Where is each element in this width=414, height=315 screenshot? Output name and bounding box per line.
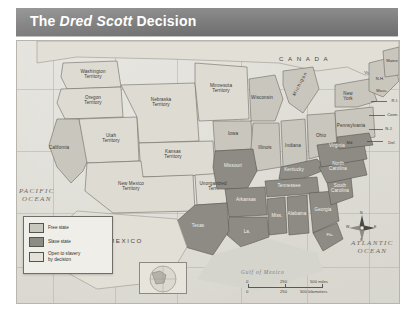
legend-swatch-slave [29, 237, 44, 247]
label-massachusetts: Mass. [373, 89, 391, 94]
label-indiana: Indiana [279, 143, 307, 148]
map-page: The Dred Scott Decision 120°W 110°W 100°… [0, 0, 414, 315]
scale-miles-max: 500 miles [310, 279, 328, 284]
label-new-jersey: N.J. [383, 127, 395, 132]
label-gulf-of-mexico: Gulf of Mexico [241, 269, 285, 275]
map-legend: Free state Slave state Open to slavery b… [23, 216, 113, 274]
legend-item-open-to-slavery: Open to slavery by decision [29, 251, 80, 262]
scale-km-max: 500 kilometers [300, 289, 327, 294]
compass-south-label: S [360, 238, 362, 242]
label-north-carolina: North Carolina [323, 161, 353, 172]
label-vermont: Vt. [361, 71, 373, 76]
label-alabama: Alabama [283, 211, 311, 216]
label-nebraska-territory: Nebraska Territory [135, 97, 187, 108]
label-oregon-territory: Oregon Territory [69, 95, 117, 106]
leader-line [369, 115, 385, 116]
label-louisiana: La. [239, 229, 255, 234]
legend-swatch-free [29, 223, 44, 233]
label-delaware: Del. [385, 141, 399, 146]
label-washington-territory: Washington Territory [69, 69, 117, 80]
scale-bar: 0 250 500 miles 0 250 500 kilometers [238, 279, 338, 299]
legend-label-slave: Slave state [48, 239, 71, 245]
leader-line [369, 129, 383, 130]
label-tennessee: Tennessee [271, 183, 307, 188]
label-illinois: Illinois [251, 145, 279, 150]
label-kentucky: Kentucky [279, 167, 309, 172]
label-ohio: Ohio [309, 133, 333, 138]
label-utah-territory: Utah Territory [89, 133, 133, 144]
label-iowa: Iowa [219, 131, 247, 136]
compass-east-label: E [374, 225, 376, 229]
label-maryland: Md. [343, 141, 357, 146]
label-unorganized-territory: Unorganized Terr. [193, 181, 233, 192]
label-kansas-territory: Kansas Territory [149, 149, 197, 160]
scale-km-mid: 250 [280, 289, 287, 294]
title-italic: Dred Scott [60, 13, 133, 29]
leader-line [367, 141, 383, 142]
scale-tick [285, 284, 286, 288]
scale-tick [322, 284, 323, 288]
legend-item-slave-state: Slave state [29, 237, 71, 247]
title-suffix: Decision [132, 13, 196, 29]
label-california: California [39, 145, 79, 150]
label-maine: Maine [381, 59, 400, 64]
label-new-york: New York [335, 91, 361, 102]
label-texas: Texas [185, 223, 211, 228]
title-prefix: The [30, 13, 60, 29]
leader-line [371, 101, 387, 102]
legend-label-free: Free state [48, 225, 69, 231]
label-south-carolina: South Carolina [325, 183, 355, 194]
label-pennsylvania: Pennsylvania [329, 123, 373, 128]
label-mexico: MEXICO [109, 237, 143, 244]
legend-label-open: Open to slavery by decision [48, 251, 80, 262]
page-title: The Dred Scott Decision [30, 13, 196, 29]
map-figure: 120°W 110°W 100°W 90°W 80°W 70°W [16, 40, 400, 304]
legend-item-free-state: Free state [29, 223, 69, 233]
label-pacific-ocean: PACIFIC OCEAN [19, 187, 55, 204]
globe-inset [139, 262, 187, 294]
label-new-mexico-territory: New Mexico Territory [103, 181, 159, 192]
compass-north-label: N [360, 211, 363, 215]
label-missouri: Missouri [217, 163, 249, 168]
label-rhode-island: R.I. [389, 99, 400, 104]
label-minnesota-territory: Minnesota Territory [197, 83, 245, 94]
label-arkansas: Arkansas [229, 197, 263, 202]
legend-swatch-open [29, 252, 44, 262]
title-banner: The Dred Scott Decision [16, 8, 398, 36]
globe-inset-graphic [140, 263, 186, 293]
compass-rose: N S E W [347, 213, 377, 243]
label-wisconsin: Wisconsin [245, 95, 279, 100]
label-florida: Fla. [323, 233, 337, 238]
compass-west-label: W [346, 225, 349, 229]
label-canada: C A N A D A [279, 55, 329, 62]
label-georgia: Georgia [309, 207, 337, 212]
label-connecticut: Conn. [385, 113, 400, 118]
scale-km-zero: 0 [246, 289, 248, 294]
label-new-hampshire: N.H. [373, 77, 387, 82]
scale-tick [248, 284, 249, 288]
